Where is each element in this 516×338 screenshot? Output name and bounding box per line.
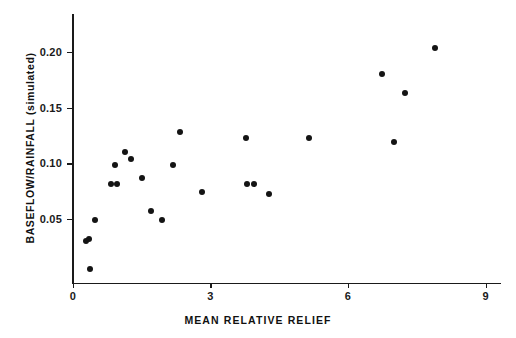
x-tick	[73, 283, 74, 288]
y-tick	[67, 52, 73, 53]
data-point	[391, 139, 397, 145]
x-tick-label: 3	[198, 290, 222, 302]
x-tick	[210, 283, 211, 288]
data-point	[87, 266, 93, 272]
data-point	[122, 149, 128, 155]
data-point	[159, 217, 165, 223]
y-tick	[67, 163, 73, 164]
x-tick-label: 9	[474, 290, 498, 302]
x-axis-title: MEAN RELATIVE RELIEF	[0, 314, 516, 326]
x-tick-label: 0	[61, 290, 85, 302]
data-point	[432, 45, 438, 51]
y-tick	[67, 219, 73, 220]
data-point	[243, 135, 249, 141]
x-tick-label: 6	[336, 290, 360, 302]
data-point	[306, 135, 312, 141]
data-point	[148, 208, 154, 214]
y-tick	[67, 108, 73, 109]
data-point	[114, 181, 120, 187]
data-point	[244, 181, 250, 187]
data-point	[199, 189, 205, 195]
data-point	[177, 129, 183, 135]
y-axis-title: BASEFLOW/RAINFALL (simulated)	[24, 14, 36, 282]
data-point	[266, 191, 272, 197]
data-point	[86, 236, 92, 242]
x-tick	[486, 283, 487, 288]
x-axis-line	[72, 283, 501, 285]
scatter-plot-figure: 0.050.100.150.20 0369 MEAN RELATIVE RELI…	[0, 0, 516, 338]
data-point	[112, 162, 118, 168]
data-point	[128, 156, 134, 162]
data-point	[379, 71, 385, 77]
x-tick	[348, 283, 349, 288]
data-point	[402, 90, 408, 96]
data-point	[170, 162, 176, 168]
data-point	[139, 175, 145, 181]
data-point	[108, 181, 114, 187]
data-point	[92, 217, 98, 223]
data-point	[251, 181, 257, 187]
y-axis-line	[72, 14, 74, 284]
